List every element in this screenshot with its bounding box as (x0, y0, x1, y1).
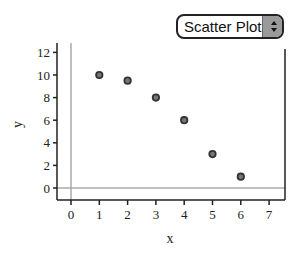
data-point (209, 151, 215, 157)
data-point (153, 94, 159, 100)
y-tick-label: 12 (37, 45, 50, 60)
y-tick-label: 8 (44, 90, 51, 105)
data-point (238, 174, 244, 180)
x-tick-label: 2 (124, 207, 131, 222)
x-tick-label: 0 (68, 207, 75, 222)
data-point (124, 77, 130, 83)
x-tick-label: 1 (96, 207, 103, 222)
y-axis-label: y (10, 121, 25, 128)
scatter-chart: 01234567024681012xy (0, 0, 300, 256)
x-tick-label: 7 (266, 207, 273, 222)
x-tick-label: 3 (153, 207, 160, 222)
y-tick-label: 2 (44, 158, 51, 173)
x-tick-label: 5 (209, 207, 216, 222)
data-point (181, 117, 187, 123)
x-tick-label: 4 (181, 207, 188, 222)
x-axis-label: x (167, 231, 174, 246)
y-tick-label: 6 (44, 113, 51, 128)
x-tick-label: 6 (238, 207, 245, 222)
data-point (96, 72, 102, 78)
y-tick-label: 10 (37, 68, 50, 83)
y-tick-label: 0 (44, 181, 51, 196)
y-tick-label: 4 (44, 135, 51, 150)
